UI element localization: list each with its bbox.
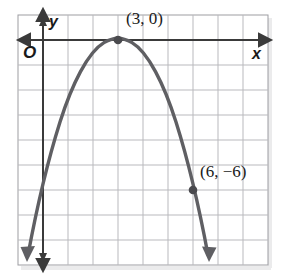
- second-point-label: (6, −6): [200, 163, 246, 180]
- coordinate-plane-svg: [0, 0, 281, 279]
- point-marker-vertex: [114, 36, 123, 45]
- parabola-graph-figure: (3, 0) (6, −6) O y x: [0, 0, 281, 279]
- y-axis-label: y: [49, 14, 58, 30]
- x-axis-label: x: [252, 46, 261, 62]
- origin-label: O: [23, 44, 36, 61]
- vertex-point-label: (3, 0): [126, 10, 163, 27]
- point-marker-second: [189, 186, 198, 195]
